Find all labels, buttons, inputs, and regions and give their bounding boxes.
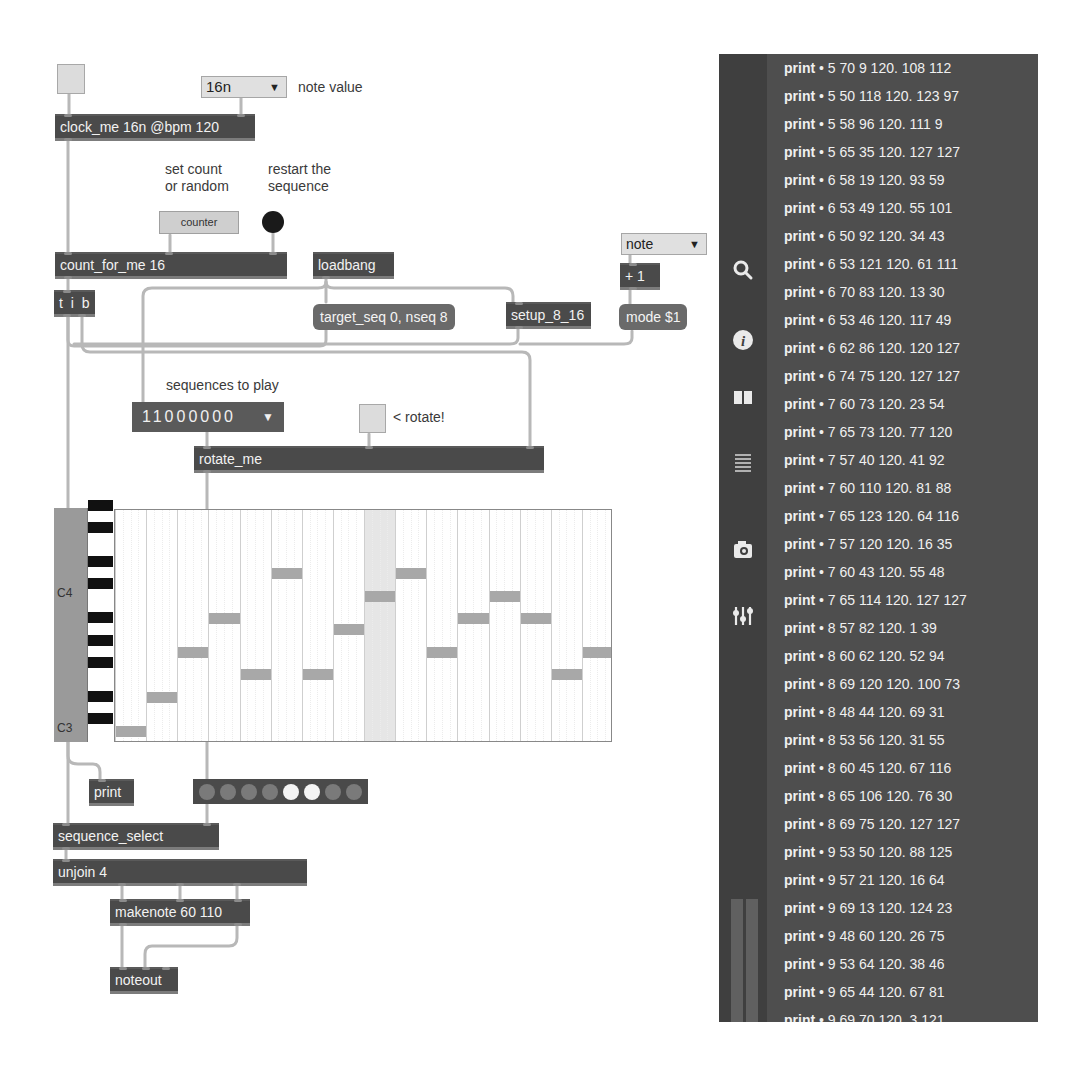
setup-object[interactable]: setup_8_16	[506, 302, 591, 329]
snapshot-icon[interactable]	[731, 538, 755, 562]
piano-roll-keyboard-side[interactable]: C4 C3	[54, 508, 88, 742]
sequences-to-play-menu[interactable]: 11000000 ▼	[132, 402, 284, 432]
console-row[interactable]: print • 8 60 45 120. 67 116	[784, 754, 1038, 782]
console-row[interactable]: print • 7 60 73 120. 23 54	[784, 390, 1038, 418]
note-block[interactable]	[116, 726, 146, 737]
console-row[interactable]: print • 9 57 21 120. 16 64	[784, 866, 1038, 894]
console-row-source: print	[784, 60, 815, 76]
sub-grid-line	[154, 510, 155, 741]
console-row[interactable]: print • 8 69 120 120. 100 73	[784, 670, 1038, 698]
count-for-me-object[interactable]: count_for_me 16	[55, 252, 287, 279]
console-row[interactable]: print • 8 53 56 120. 31 55	[784, 726, 1038, 754]
console-row[interactable]: print • 8 57 82 120. 1 39	[784, 614, 1038, 642]
note-block[interactable]	[427, 647, 457, 658]
note-block[interactable]	[583, 647, 612, 658]
console-row[interactable]: print • 9 69 70 120. 3 121	[784, 1006, 1038, 1022]
sequence-led[interactable]	[304, 784, 320, 800]
sequence-led[interactable]	[346, 784, 362, 800]
console-row[interactable]: print • 9 53 64 120. 38 46	[784, 950, 1038, 978]
sequence-led[interactable]	[262, 784, 278, 800]
restart-bang-button[interactable]	[262, 211, 284, 233]
mode-message[interactable]: mode $1	[619, 304, 687, 330]
console-row[interactable]: print • 5 70 9 120. 108 112	[784, 54, 1038, 82]
sequence-select-object[interactable]: sequence_select	[53, 823, 219, 850]
loadbang-object[interactable]: loadbang	[313, 252, 394, 279]
note-block[interactable]	[490, 591, 520, 602]
console-row-message: 5 58 96 120. 111 9	[828, 116, 943, 132]
console-row[interactable]: print • 7 65 73 120. 77 120	[784, 418, 1038, 446]
console-row[interactable]: print • 7 65 114 120. 127 127	[784, 586, 1038, 614]
note-block[interactable]	[334, 624, 364, 635]
makenote-object[interactable]: makenote 60 110	[110, 899, 250, 926]
sequence-led[interactable]	[325, 784, 341, 800]
counter-button[interactable]: counter	[159, 211, 239, 234]
trigger-tib-object[interactable]: t i b	[54, 290, 95, 317]
piano-roll-grid[interactable]	[114, 509, 612, 742]
sequence-led[interactable]	[241, 784, 257, 800]
piano-keys[interactable]	[87, 508, 114, 742]
console-row[interactable]: print • 5 65 35 120. 127 127	[784, 138, 1038, 166]
plus-one-object[interactable]: + 1	[620, 263, 660, 290]
console-row[interactable]: print • 6 58 19 120. 93 59	[784, 166, 1038, 194]
note-block[interactable]	[458, 613, 488, 624]
console-row[interactable]: print • 7 57 120 120. 16 35	[784, 530, 1038, 558]
console-row[interactable]: print • 9 48 60 120. 26 75	[784, 922, 1038, 950]
sequence-led[interactable]	[199, 784, 215, 800]
console-row[interactable]: print • 6 53 46 120. 117 49	[784, 306, 1038, 334]
console-row-source: print	[784, 284, 815, 300]
console-row[interactable]: print • 6 53 121 120. 61 111	[784, 250, 1038, 278]
mode-menu[interactable]: note ▼	[621, 233, 707, 255]
console-row[interactable]: print • 6 50 92 120. 34 43	[784, 222, 1038, 250]
console-row[interactable]: print • 6 53 49 120. 55 101	[784, 194, 1038, 222]
console-row[interactable]: print • 6 70 83 120. 13 30	[784, 278, 1038, 306]
console-row[interactable]: print • 9 53 50 120. 88 125	[784, 838, 1038, 866]
unjoin-object[interactable]: unjoin 4	[53, 859, 307, 886]
bullet-separator: •	[815, 1012, 828, 1022]
console-row-message: 8 48 44 120. 69 31	[828, 704, 945, 720]
console-row-message: 6 62 86 120. 120 127	[828, 340, 960, 356]
console-log[interactable]: print • 5 70 9 120. 108 112print • 5 50 …	[784, 54, 1038, 1022]
console-row-source: print	[784, 116, 815, 132]
rotate-toggle[interactable]	[359, 404, 386, 433]
console-row[interactable]: print • 9 65 44 120. 67 81	[784, 978, 1038, 1006]
console-row[interactable]: print • 7 65 123 120. 64 116	[784, 502, 1038, 530]
console-row[interactable]: print • 7 60 43 120. 55 48	[784, 558, 1038, 586]
console-row[interactable]: print • 8 65 106 120. 76 30	[784, 782, 1038, 810]
sequence-led-bar[interactable]	[193, 779, 368, 804]
print-object[interactable]: print	[89, 779, 134, 806]
note-block[interactable]	[272, 568, 302, 579]
sequence-led[interactable]	[283, 784, 299, 800]
console-row[interactable]: print • 9 69 13 120. 124 23	[784, 894, 1038, 922]
target-seq-message[interactable]: target_seq 0, nseq 8	[313, 304, 455, 330]
console-row[interactable]: print • 5 50 118 120. 123 97	[784, 82, 1038, 110]
console-row[interactable]: print • 6 62 86 120. 120 127	[784, 334, 1038, 362]
console-row[interactable]: print • 7 57 40 120. 41 92	[784, 446, 1038, 474]
note-block[interactable]	[147, 692, 177, 703]
console-row[interactable]: print • 6 74 75 120. 127 127	[784, 362, 1038, 390]
noteout-object[interactable]: noteout	[110, 967, 178, 994]
console-row[interactable]: print • 7 60 110 120. 81 88	[784, 474, 1038, 502]
list-icon[interactable]	[731, 450, 755, 474]
note-block[interactable]	[396, 568, 426, 579]
note-block[interactable]	[552, 669, 582, 680]
mixer-icon[interactable]	[731, 604, 755, 628]
reference-icon[interactable]	[731, 386, 755, 410]
note-block[interactable]	[241, 669, 271, 680]
clock-me-object[interactable]: clock_me 16n @bpm 120	[55, 114, 255, 141]
note-block[interactable]	[303, 669, 333, 680]
console-row-message: 6 53 49 120. 55 101	[828, 200, 953, 216]
sequence-led[interactable]	[220, 784, 236, 800]
console-row[interactable]: print • 8 48 44 120. 69 31	[784, 698, 1038, 726]
toggle-start[interactable]	[57, 64, 85, 94]
console-row[interactable]: print • 8 60 62 120. 52 94	[784, 642, 1038, 670]
rotate-me-object[interactable]: rotate_me	[194, 446, 544, 473]
info-icon[interactable]: i	[731, 328, 755, 352]
note-value-menu[interactable]: 16n ▼	[201, 76, 287, 98]
note-block[interactable]	[209, 613, 239, 624]
note-block[interactable]	[521, 613, 551, 624]
note-block[interactable]	[365, 591, 395, 602]
console-row[interactable]: print • 5 58 96 120. 111 9	[784, 110, 1038, 138]
console-row[interactable]: print • 8 69 75 120. 127 127	[784, 810, 1038, 838]
search-icon[interactable]	[731, 258, 755, 282]
note-block[interactable]	[178, 647, 208, 658]
